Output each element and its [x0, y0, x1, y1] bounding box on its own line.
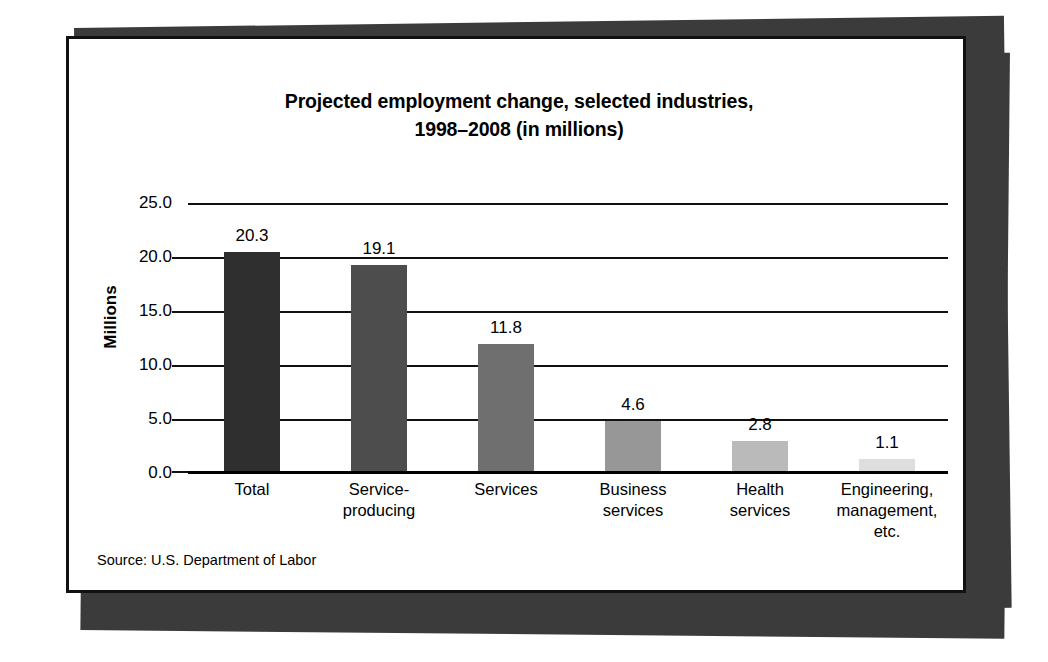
bar-engineering-management[interactable]	[859, 459, 915, 471]
bar-value-total: 20.3	[235, 226, 268, 246]
tick-stub-15	[172, 311, 188, 313]
tick-stub-20	[172, 257, 188, 259]
tick-stub-0	[172, 471, 188, 473]
bar-slot-business-services: 4.6	[605, 203, 661, 473]
x-tick-label-total: Total	[188, 479, 316, 500]
x-tick-label-engineering-management: Engineering, management, etc.	[821, 479, 953, 542]
y-tick-label-10: 10.0	[110, 355, 172, 375]
bar-slot-service-producing: 19.1	[351, 203, 407, 473]
x-tick-label-business-services-line-1: Business	[569, 479, 697, 500]
y-tick-label-5: 5.0	[110, 409, 172, 429]
y-tick-label-15: 15.0	[110, 301, 172, 321]
chart-card: Projected employment change, selected in…	[66, 36, 966, 593]
y-tick-label-20: 20.0	[110, 247, 172, 267]
x-tick-label-service-producing-line-1: Service-	[315, 479, 443, 500]
chart-title-line-1: Projected employment change, selected in…	[129, 87, 909, 115]
bar-service-producing[interactable]	[351, 265, 407, 471]
x-tick-label-health-services-line-2: services	[696, 500, 824, 521]
x-tick-label-health-services-line-1: Health	[696, 479, 824, 500]
plot-area: 20.3 19.1 11.8 4.6 2.8 1.1	[188, 203, 948, 473]
y-tick-label-0: 0.0	[110, 463, 172, 483]
x-tick-label-engineering-management-line-1: Engineering,	[821, 479, 953, 500]
gridline-10	[188, 365, 948, 367]
tick-stub-5	[172, 419, 188, 421]
bar-value-engineering-management: 1.1	[875, 433, 899, 453]
x-tick-label-service-producing-line-2: producing	[315, 500, 443, 521]
tick-stub-10	[172, 365, 188, 367]
bar-value-business-services: 4.6	[621, 395, 645, 415]
x-tick-label-engineering-management-line-3: etc.	[821, 521, 953, 542]
bar-value-services: 11.8	[490, 318, 522, 338]
axis-baseline	[188, 471, 948, 474]
chart-title-line-2: 1998–2008 (in millions)	[129, 115, 909, 143]
x-tick-label-health-services: Health services	[696, 479, 824, 521]
gridline-20	[188, 257, 948, 259]
x-tick-label-services: Services	[442, 479, 570, 500]
chart-title: Projected employment change, selected in…	[129, 87, 909, 144]
x-tick-label-business-services-line-2: services	[569, 500, 697, 521]
x-tick-label-engineering-management-line-2: management,	[821, 500, 953, 521]
bar-services[interactable]	[478, 344, 534, 471]
bar-total[interactable]	[224, 252, 280, 471]
bar-value-service-producing: 19.1	[362, 239, 395, 259]
x-tick-label-total-line-1: Total	[188, 479, 316, 500]
x-tick-label-service-producing: Service- producing	[315, 479, 443, 521]
bar-business-services[interactable]	[605, 421, 661, 471]
y-axis-tick-labels: 25.0 20.0 15.0 10.0 5.0 0.0	[110, 203, 172, 473]
bar-slot-engineering-management: 1.1	[859, 203, 915, 473]
bar-slot-services: 11.8	[478, 203, 534, 473]
bar-health-services[interactable]	[732, 441, 788, 471]
gridline-25	[188, 203, 948, 205]
bar-slot-total: 20.3	[224, 203, 280, 473]
bar-slot-health-services: 2.8	[732, 203, 788, 473]
gridline-5	[188, 419, 948, 421]
y-tick-label-25: 25.0	[110, 193, 172, 213]
x-tick-label-services-line-1: Services	[442, 479, 570, 500]
x-tick-label-business-services: Business services	[569, 479, 697, 521]
gridline-15	[188, 311, 948, 313]
source-note: Source: U.S. Department of Labor	[97, 552, 316, 568]
bar-value-health-services: 2.8	[748, 415, 772, 435]
